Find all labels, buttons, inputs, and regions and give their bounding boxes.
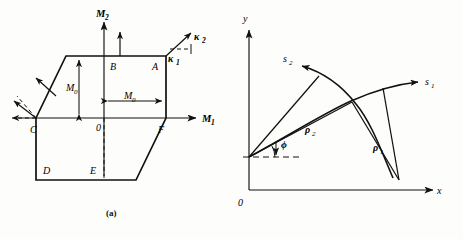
dimension-label-m0-horizontal-sub: 0 xyxy=(132,96,136,104)
kappa2-label-sub: 2 xyxy=(201,36,206,45)
curve-label-s1-sub: 1 xyxy=(431,82,435,90)
radius-rho2-chord xyxy=(249,102,352,157)
vertex-label-e: E xyxy=(89,165,96,176)
phi-angle-label: ϕ xyxy=(281,139,287,150)
axis-label-x: x xyxy=(436,185,442,196)
curve-label-s1: s xyxy=(425,76,429,87)
panel-a-drawing: M 1 M 2 0 A B C D E F M 0 M 0 κ 2 κ 1 xyxy=(0,0,232,239)
normal-arrow-edge-cb xyxy=(36,78,56,96)
panel-a: M 1 M 2 0 A B C D E F M 0 M 0 κ 2 κ 1 (a… xyxy=(0,0,232,239)
panel-b-drawing: x y 0 s 1 s 2 ρ 1 ρ 2 ϕ xyxy=(231,0,463,239)
kappa1-label: κ xyxy=(168,53,174,64)
vertex-label-b: B xyxy=(110,61,116,72)
curve-label-s2-sub: 2 xyxy=(289,59,293,67)
kappa2-label: κ xyxy=(194,31,200,42)
curve-label-s2: s xyxy=(283,53,287,64)
radius-label-rho1-sub: 1 xyxy=(380,148,384,156)
panel-b: x y 0 s 1 s 2 ρ 1 ρ 2 ϕ (b) xyxy=(231,0,463,239)
origin-label-b: 0 xyxy=(238,197,243,208)
figure-container: M 1 M 2 0 A B C D E F M 0 M 0 κ 2 κ 1 (a… xyxy=(0,0,463,239)
radius-label-rho1: ρ xyxy=(372,142,378,153)
axis-label-y: y xyxy=(242,13,248,24)
vertex-label-c: C xyxy=(30,124,37,135)
panel-a-caption: (a) xyxy=(106,208,117,218)
vertex-label-a: A xyxy=(151,61,159,72)
normal-arrow-at-c-dashed-diagonal xyxy=(17,96,36,118)
vertex-label-d: D xyxy=(42,165,51,176)
radius-label-rho2: ρ xyxy=(304,124,310,135)
axis-label-m1-sub: 1 xyxy=(211,118,215,127)
axis-label-m2-sub: 2 xyxy=(104,13,109,22)
kappa1-label-sub: 1 xyxy=(176,58,180,67)
dimension-label-m0-vertical-sub: 0 xyxy=(74,88,78,96)
vertex-label-f: F xyxy=(157,124,165,135)
phi-angle-arc xyxy=(272,146,275,157)
normal-arrow-at-c-solid xyxy=(14,101,36,118)
origin-label: 0 xyxy=(96,122,101,133)
radius-label-rho2-sub: 2 xyxy=(312,130,316,138)
